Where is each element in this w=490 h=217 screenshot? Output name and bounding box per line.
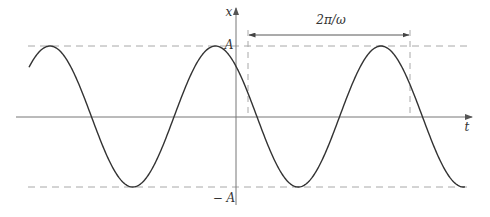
x-axis-label: x bbox=[226, 5, 233, 19]
period-label: 2π/ω bbox=[315, 13, 346, 27]
oscillation-diagram: 2π/ω t x A − A bbox=[0, 0, 490, 217]
negative-amplitude-label: − A bbox=[213, 191, 236, 205]
t-axis-label: t bbox=[465, 120, 470, 134]
